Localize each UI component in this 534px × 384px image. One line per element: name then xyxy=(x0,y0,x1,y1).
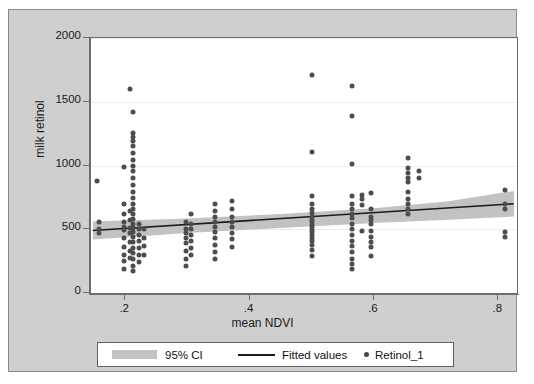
y-tick-label: 1500 xyxy=(41,94,81,106)
x-tick-label: .4 xyxy=(244,302,254,314)
data-point xyxy=(121,245,126,250)
data-point xyxy=(350,238,355,243)
data-point xyxy=(213,214,218,219)
data-point xyxy=(359,228,364,233)
data-point xyxy=(309,247,314,252)
data-point xyxy=(406,156,411,161)
data-point xyxy=(130,190,135,195)
data-point xyxy=(350,113,355,118)
x-tick-label: .2 xyxy=(119,302,129,314)
y-tick-label: 1000 xyxy=(41,158,81,170)
x-axis-title: mean NDVI xyxy=(9,316,516,330)
legend-label-fit: Fitted values xyxy=(282,349,347,361)
data-point xyxy=(130,251,135,256)
data-point xyxy=(359,203,364,208)
data-point xyxy=(188,253,193,258)
legend-item-ci: 95% CI xyxy=(112,349,203,361)
data-point xyxy=(121,211,126,216)
data-point xyxy=(213,236,218,241)
data-point xyxy=(142,244,147,249)
data-point xyxy=(230,245,235,250)
data-point xyxy=(368,228,373,233)
data-point xyxy=(130,263,135,268)
data-point xyxy=(350,221,355,226)
dot-swatch-icon xyxy=(364,352,369,357)
data-point xyxy=(350,227,355,232)
data-point xyxy=(416,175,421,180)
data-point xyxy=(130,269,135,274)
data-point xyxy=(142,252,147,257)
data-point xyxy=(188,232,193,237)
data-point xyxy=(213,201,218,206)
data-point xyxy=(213,229,218,234)
data-point xyxy=(416,168,421,173)
line-swatch-icon xyxy=(238,354,275,356)
fitted-line xyxy=(91,38,517,293)
data-point xyxy=(350,266,355,271)
gridline xyxy=(91,293,517,294)
data-point xyxy=(136,252,141,257)
y-tick xyxy=(83,101,89,102)
data-point xyxy=(368,254,373,259)
chart-panel: milk retinol 0500100015002000 .2.4.6.8 m… xyxy=(8,9,517,372)
y-tick-label: 2000 xyxy=(41,30,81,42)
legend-label-points: Retinol_1 xyxy=(375,349,424,361)
data-point xyxy=(130,257,135,262)
data-point xyxy=(359,197,364,202)
x-axis-line xyxy=(90,294,519,295)
data-point xyxy=(502,234,507,239)
data-point xyxy=(97,219,102,224)
data-point xyxy=(188,211,193,216)
data-point xyxy=(350,162,355,167)
data-point xyxy=(309,150,314,155)
data-point xyxy=(136,246,141,251)
data-point xyxy=(188,227,193,232)
data-point xyxy=(184,264,189,269)
x-tick-label: .8 xyxy=(493,302,503,314)
y-tick-label: 0 xyxy=(41,285,81,297)
x-tick xyxy=(373,295,374,300)
data-point xyxy=(127,87,132,92)
data-point xyxy=(368,207,373,212)
data-point xyxy=(213,242,218,247)
data-point xyxy=(230,219,235,224)
data-point xyxy=(121,236,126,241)
data-point xyxy=(130,168,135,173)
data-point xyxy=(230,231,235,236)
plot-area xyxy=(90,37,518,294)
data-point xyxy=(121,164,126,169)
data-point xyxy=(121,201,126,206)
chart-root: milk retinol 0500100015002000 .2.4.6.8 m… xyxy=(0,0,534,384)
legend: 95% CI Fitted values Retinol_1 xyxy=(97,342,454,367)
legend-label-ci: 95% CI xyxy=(165,349,203,361)
data-point xyxy=(502,187,507,192)
data-point xyxy=(309,72,314,77)
data-point xyxy=(97,231,102,236)
data-point xyxy=(350,84,355,89)
data-point xyxy=(406,190,411,195)
data-point xyxy=(142,236,147,241)
y-tick xyxy=(83,37,89,38)
x-tick xyxy=(497,295,498,300)
data-point xyxy=(130,240,135,245)
data-point xyxy=(188,246,193,251)
data-point xyxy=(142,226,147,231)
data-point xyxy=(502,206,507,211)
data-point xyxy=(213,256,218,261)
data-point xyxy=(130,151,135,156)
y-tick xyxy=(83,228,89,229)
data-point xyxy=(350,232,355,237)
data-point xyxy=(188,221,193,226)
data-point xyxy=(406,211,411,216)
data-point xyxy=(136,232,141,237)
data-point xyxy=(368,245,373,250)
data-point xyxy=(213,249,218,254)
data-point xyxy=(230,237,235,242)
data-point xyxy=(130,245,135,250)
data-point xyxy=(136,259,141,264)
y-tick xyxy=(83,292,89,293)
data-point xyxy=(95,178,100,183)
data-point xyxy=(309,194,314,199)
data-point xyxy=(230,206,235,211)
data-point xyxy=(368,222,373,227)
